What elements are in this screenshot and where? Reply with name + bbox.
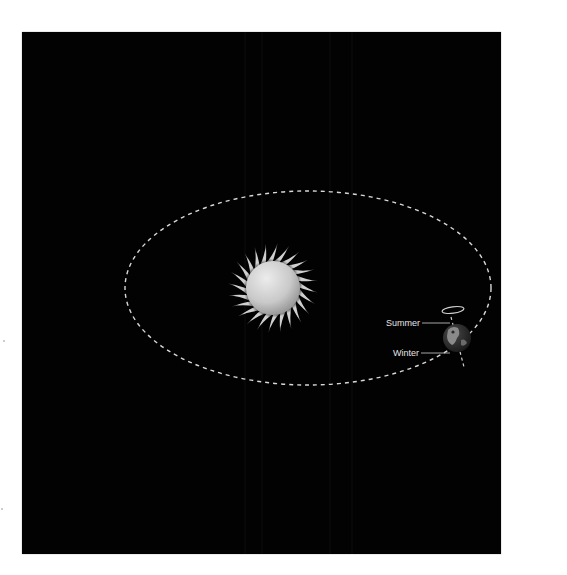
orbit-diagram [22, 32, 501, 554]
summer-label: Summer [386, 318, 420, 328]
winter-label: Winter [393, 348, 419, 358]
scan-speck [3, 340, 5, 342]
earth-icon [443, 324, 471, 352]
scan-speck [1, 508, 3, 510]
orbit-path [125, 191, 491, 385]
diagram-panel: Summer Winter [22, 32, 501, 554]
earth-ring-icon [442, 305, 465, 314]
sun-disc [246, 261, 300, 315]
